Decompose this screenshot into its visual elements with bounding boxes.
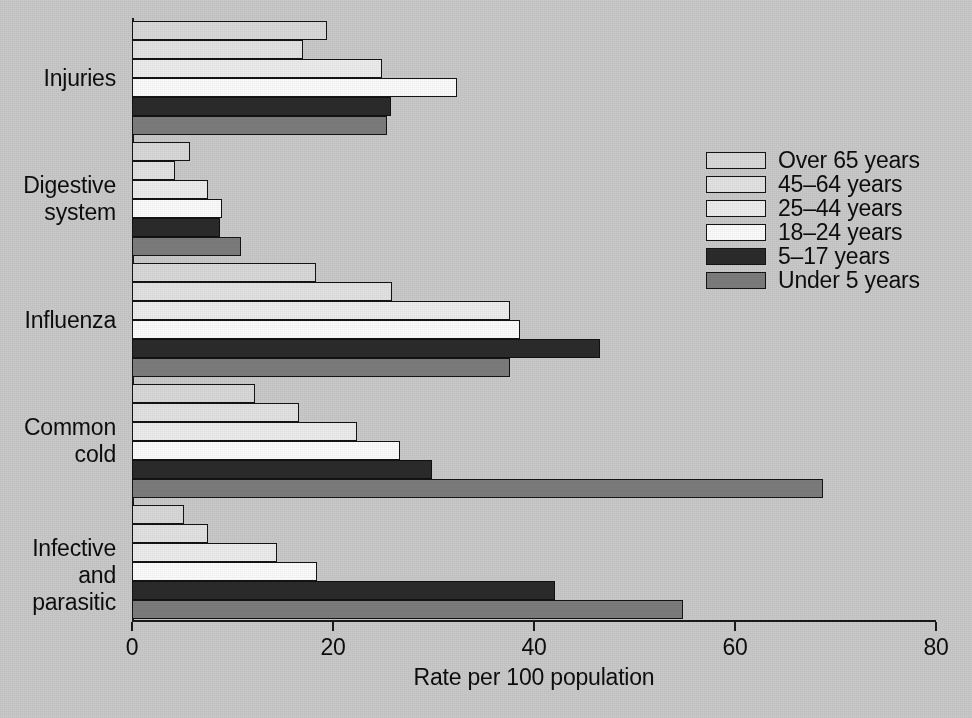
bar (132, 581, 555, 600)
bar (132, 422, 357, 441)
bar (132, 59, 382, 78)
legend: Over 65 years45–64 years25–44 years18–24… (706, 148, 956, 292)
legend-swatch-icon (706, 272, 766, 289)
x-axis-tick (935, 622, 937, 631)
bar (132, 384, 255, 403)
category-label-line: Influenza (0, 307, 116, 334)
category-label-line: Injuries (0, 65, 116, 92)
legend-item[interactable]: 5–17 years (706, 244, 956, 268)
x-axis-tick (131, 622, 133, 631)
bar (132, 562, 317, 581)
category-axis-labels: InjuriesDigestivesystemInfluenzaCommonco… (0, 18, 124, 622)
x-axis-tick-label: 40 (522, 634, 547, 661)
bar (132, 237, 241, 256)
bar (132, 78, 457, 97)
bar (132, 441, 400, 460)
x-axis-tick-label: 20 (321, 634, 346, 661)
legend-swatch-icon (706, 200, 766, 217)
bar (132, 339, 600, 358)
x-axis-tick (332, 622, 334, 631)
bar (132, 218, 220, 237)
bar-chart: InjuriesDigestivesystemInfluenzaCommonco… (0, 0, 972, 718)
x-axis-tick-label: 60 (723, 634, 748, 661)
category-label: Digestivesystem (0, 172, 116, 226)
x-axis-tick-label: 80 (924, 634, 949, 661)
bar (132, 97, 391, 116)
legend-label: 5–17 years (778, 243, 890, 270)
bar (132, 301, 510, 320)
x-axis-tick (734, 622, 736, 631)
legend-label: 18–24 years (778, 219, 902, 246)
bar (132, 600, 683, 619)
legend-item[interactable]: Under 5 years (706, 268, 956, 292)
category-label: Infective andparasitic (0, 535, 116, 616)
legend-item[interactable]: 45–64 years (706, 172, 956, 196)
bar (132, 263, 316, 282)
legend-label: 25–44 years (778, 195, 902, 222)
category-label-line: parasitic (0, 589, 116, 616)
category-label: Commoncold (0, 414, 116, 468)
legend-swatch-icon (706, 248, 766, 265)
plot-area: 020406080 (132, 18, 936, 622)
legend-swatch-icon (706, 176, 766, 193)
x-axis-title: Rate per 100 population (132, 664, 936, 691)
category-label-line: Common (0, 414, 116, 441)
bar (132, 161, 175, 180)
bar (132, 116, 387, 135)
legend-item[interactable]: Over 65 years (706, 148, 956, 172)
legend-label: 45–64 years (778, 171, 902, 198)
x-axis-tick-label: 0 (126, 634, 139, 661)
legend-swatch-icon (706, 152, 766, 169)
category-label-line: system (0, 199, 116, 226)
bar (132, 479, 823, 498)
legend-item[interactable]: 25–44 years (706, 196, 956, 220)
bar (132, 320, 520, 339)
bar (132, 21, 327, 40)
bars-layer (132, 18, 936, 622)
x-axis-tick (533, 622, 535, 631)
bar (132, 282, 392, 301)
legend-swatch-icon (706, 224, 766, 241)
bar (132, 403, 299, 422)
legend-item[interactable]: 18–24 years (706, 220, 956, 244)
bar (132, 180, 208, 199)
legend-label: Under 5 years (778, 267, 920, 294)
legend-label: Over 65 years (778, 147, 920, 174)
category-label: Influenza (0, 307, 116, 334)
bar (132, 524, 208, 543)
bar (132, 358, 510, 377)
category-label-line: Infective and (0, 535, 116, 589)
bar (132, 505, 184, 524)
category-label-line: Digestive (0, 172, 116, 199)
bar (132, 543, 277, 562)
category-label: Injuries (0, 65, 116, 92)
bar (132, 460, 432, 479)
bar (132, 199, 222, 218)
category-label-line: cold (0, 441, 116, 468)
bar (132, 142, 190, 161)
bar (132, 40, 303, 59)
